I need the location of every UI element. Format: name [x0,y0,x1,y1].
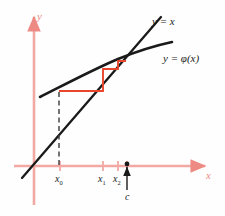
y-axis-label: y [37,11,42,22]
cobweb-polyline [59,61,126,91]
tick-label-x1: x1 [98,174,106,186]
tick-label-x0-subscript: 0 [59,179,62,186]
label-y-equals-phi-x: y = φ(x) [163,53,199,64]
tick-label-x2: x2 [113,174,121,186]
identity-line-y-equals-x [22,17,161,178]
tick-label-x0: x0 [55,174,63,186]
point-label-c: c [125,192,129,202]
axis-group [14,17,205,205]
x-axis-label: x [206,170,211,181]
point-c-dot [125,162,130,167]
tick-label-x2-subscript: 2 [117,179,120,186]
cobweb-staircase [59,61,126,91]
fixed-point-cobweb-figure: y = x y = φ(x) y x x0 x1 x2 c [0,0,225,216]
tick-label-x1-subscript: 1 [102,179,105,186]
label-y-equals-x: y = x [152,16,175,27]
